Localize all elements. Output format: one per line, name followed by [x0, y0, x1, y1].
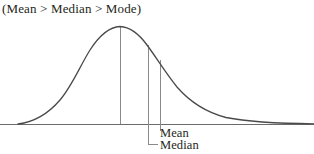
density-curve [18, 27, 314, 125]
skewed-distribution-figure: (Mean > Median > Mode) Mean Median [0, 0, 314, 154]
distribution-plot [0, 0, 314, 154]
median-label: Median [160, 139, 199, 152]
